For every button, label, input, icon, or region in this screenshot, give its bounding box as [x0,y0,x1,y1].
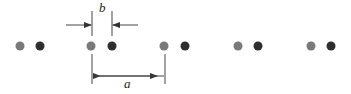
label-b: b [99,0,106,16]
atom-type-2 [181,42,190,51]
atom-type-2 [36,42,45,51]
atom-type-2 [108,42,117,51]
atom-type-2 [327,42,336,51]
atom-type-1 [87,42,96,51]
atom-type-1 [160,42,169,51]
atom-row [16,42,336,51]
atom-type-1 [307,42,316,51]
atom-type-1 [234,42,243,51]
chain-diagram [0,0,351,94]
atom-type-1 [16,42,25,51]
label-a: a [124,76,131,92]
atom-type-2 [254,42,263,51]
